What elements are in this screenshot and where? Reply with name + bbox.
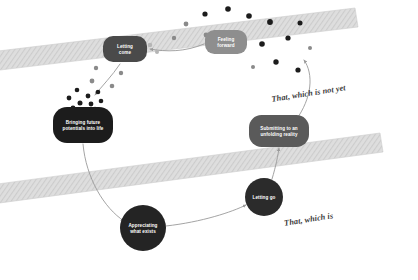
diagram-canvas: LettingcomeFeelingforwardBringing future… bbox=[0, 0, 418, 280]
band-label-upper: That, which is not yet bbox=[271, 83, 347, 104]
band-labels-layer: That, which is not yet That, which is bbox=[0, 0, 418, 280]
band-label-lower: That, which is bbox=[284, 211, 334, 228]
